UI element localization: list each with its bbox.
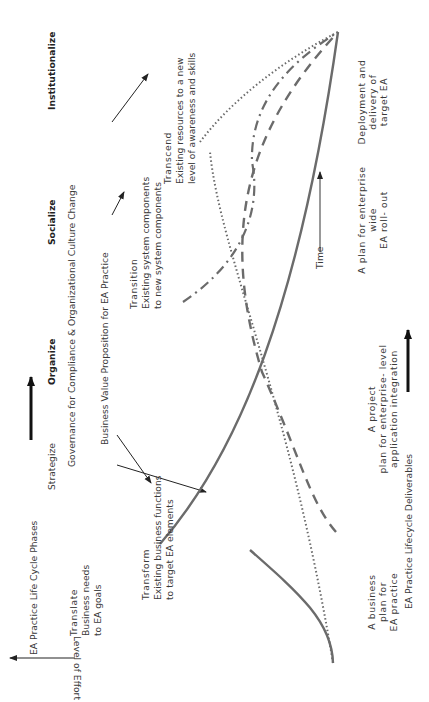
stage-transform-title: Transform [140,549,151,600]
deliverable-3-line2: wide [367,150,378,290]
stage-transition-line2: to new system components [152,182,163,309]
phase-strategize: Strategize [46,443,57,490]
deliverable-2-line2: plan for enterprise- level [377,334,388,484]
stage-transcend-line1: Existing resources to a new [174,58,185,184]
deliverables-label: EA Practice Lifecycle Deliverables [403,454,414,609]
phase-organize: Organize [46,339,57,385]
stage-translate-title: Translate [68,589,79,636]
curve-transform-dashed [242,32,338,532]
curve-dotted-long [210,152,333,663]
curve-translate [250,550,333,663]
deliverable-2-line1: A project [366,334,377,484]
deliverable-1-line1: A business [366,547,377,657]
stage-transcend-title: Transcend [162,132,173,184]
stage-transform-line2: to target EA elements [164,499,175,600]
deliverable-1-line2: plan for [377,547,388,657]
deliverable-3-line3: EA roll- out [378,150,389,290]
deliverable-4: Deployment and delivery of target EA [356,42,389,162]
deliverable-1: A business plan for EA practice [366,547,399,657]
deliverable-4-line3: target EA [378,42,389,162]
deliverable-2-line3: application integration [388,334,399,484]
value-arrow-translate [117,435,151,483]
stage-translate-line1: Business needs [80,565,91,636]
deliverable-4-line1: Deployment and [356,42,367,162]
governance-label: Governance for Compliance & Organization… [66,185,77,467]
deliverable-2: A project plan for enterprise- level app… [366,334,399,484]
value-arrow-transition [112,192,124,215]
stage-translate-line2: to EA goals [92,584,103,636]
deliverable-1-line3: EA practice [388,547,399,657]
deliverable-3: A plan for enterprise wide EA roll- out [356,150,389,290]
ea-lifecycle-diagram: EA Practice Life Cycle Phases Strategize… [0,0,429,702]
stage-transition-line1: Existing system components [140,177,151,309]
stage-transform-line1: Existing business functions [152,475,163,600]
level-of-effort-label: Level of Effort [72,636,83,700]
stage-transcend-line2: level of awareness and skills [186,53,197,184]
value-arrow-transcend [112,74,148,122]
deliverable-4-line2: delivery of [367,42,378,162]
deliverable-3-line1: A plan for enterprise [356,150,367,290]
phase-socialize: Socialize [46,199,57,245]
lifecycle-phases-label: EA Practice Life Cycle Phases [28,521,39,655]
curve-transcend-dotted [200,32,338,142]
stage-transition-title: Transition [128,259,139,309]
value-proposition-label: Business Value Proposition for EA Practi… [99,252,110,445]
time-label: Time [314,247,325,269]
phase-institutionalize: Institutionalize [46,32,57,110]
